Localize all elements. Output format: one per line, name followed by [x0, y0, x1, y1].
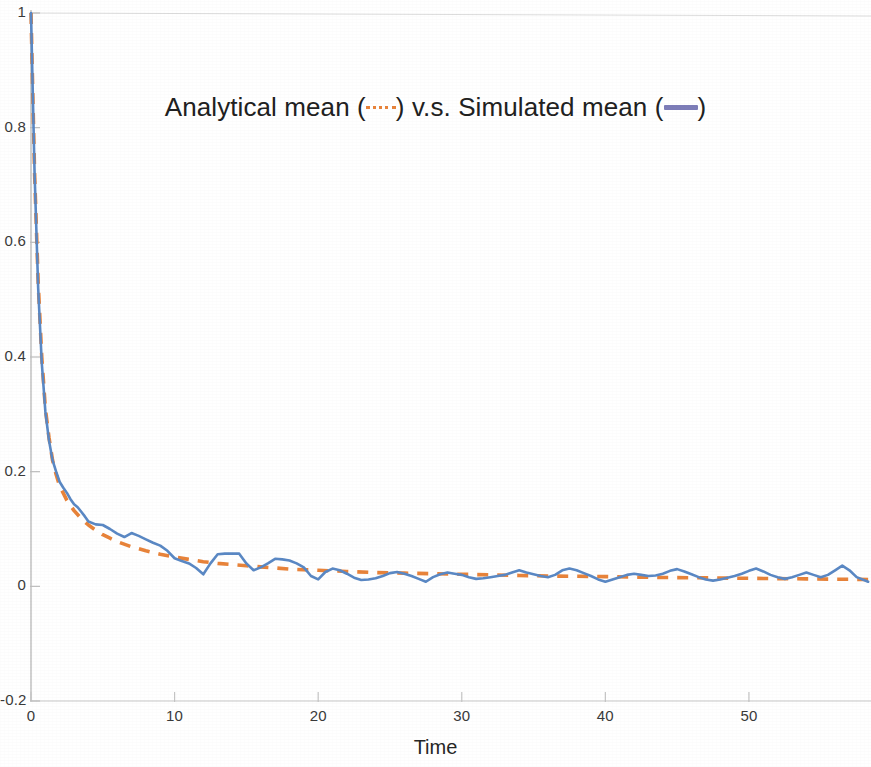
chart-figure: -0.200.20.40.60.81 01020304050 Analytica…	[0, 0, 871, 767]
title-text-mid: ) v.s. Simulated mean (	[396, 92, 664, 122]
x-tick-label: 20	[298, 707, 338, 724]
y-tick-label: 0	[0, 576, 26, 593]
legend-solid-line-icon	[664, 105, 698, 110]
y-tick-label: 0.4	[0, 347, 26, 364]
plot-top-line	[31, 13, 871, 16]
x-tick-label: 10	[155, 707, 195, 724]
title-text-before: Analytical mean (	[165, 92, 366, 122]
y-tick-label: 0.2	[0, 462, 26, 479]
y-tick-label: 0.6	[0, 232, 26, 249]
x-axis-label: Time	[0, 736, 871, 759]
x-tick-label: 0	[11, 707, 51, 724]
y-tick-label: 1	[0, 3, 26, 20]
x-tick-label: 40	[585, 707, 625, 724]
x-tick-label: 50	[729, 707, 769, 724]
chart-title: Analytical mean () v.s. Simulated mean (…	[0, 92, 871, 123]
title-text-after: )	[698, 92, 707, 122]
legend-dashed-line-icon	[366, 106, 396, 109]
y-tick-label: -0.2	[0, 691, 26, 708]
x-tick-label: 30	[442, 707, 482, 724]
